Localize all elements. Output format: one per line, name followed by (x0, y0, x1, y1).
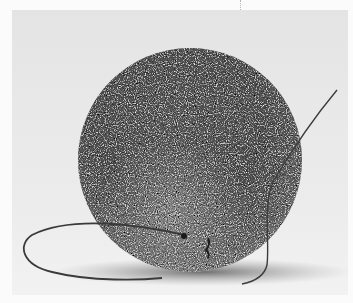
wire-entry-point (181, 233, 187, 239)
sphere (78, 48, 302, 272)
photograph: Close-up photograph of a fuzzy, granular… (12, 10, 348, 295)
sphere-illustration (12, 10, 348, 295)
